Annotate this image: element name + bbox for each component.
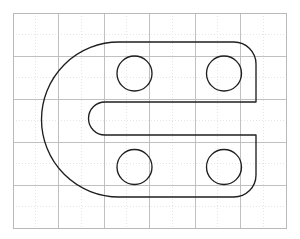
drawing-canvas [0,0,300,239]
technical-drawing-svg [0,0,300,239]
canvas-background [0,0,300,239]
